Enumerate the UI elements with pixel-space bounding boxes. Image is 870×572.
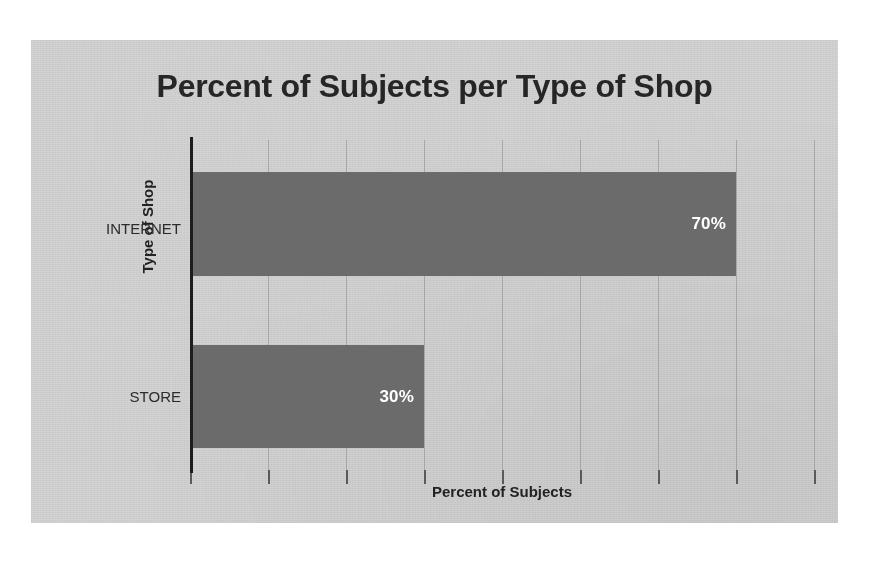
- x-axis-tick-10: [268, 470, 270, 484]
- bar-value-label-store: 30%: [379, 387, 414, 407]
- bar-internet: 70%: [190, 172, 736, 276]
- category-axis-line: [190, 137, 193, 473]
- x-axis-title: Percent of Subjects: [190, 483, 814, 500]
- gridline-80: [814, 140, 815, 470]
- x-axis-tick-20: [346, 470, 348, 484]
- x-axis-tick-40: [502, 470, 504, 484]
- x-axis-tick-50: [580, 470, 582, 484]
- gridline-70: [736, 140, 737, 470]
- bar-store: 30%: [190, 345, 424, 448]
- y-axis-tick-label-internet: INTERNET: [31, 220, 181, 237]
- x-axis-tick-80: [814, 470, 816, 484]
- x-axis-tick-60: [658, 470, 660, 484]
- y-axis-tick-label-store: STORE: [31, 388, 181, 405]
- scanned-page: Percent of Subjects per Type of Shop Typ…: [0, 0, 870, 572]
- bar-value-label-internet: 70%: [691, 214, 726, 234]
- x-axis-tick-30: [424, 470, 426, 484]
- x-axis-tick-70: [736, 470, 738, 484]
- chart-figure: Percent of Subjects per Type of Shop Typ…: [31, 40, 838, 523]
- chart-title: Percent of Subjects per Type of Shop: [31, 68, 838, 105]
- plot-area: 70% 30%: [190, 140, 814, 470]
